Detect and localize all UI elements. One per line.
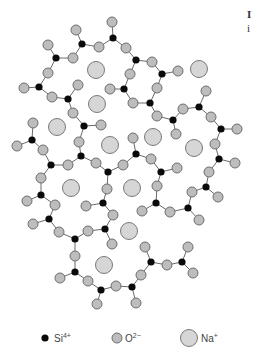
si-ion — [80, 122, 87, 129]
o-ion — [68, 53, 78, 63]
na-legend-icon — [181, 330, 198, 347]
legend-na-label: Na — [201, 333, 214, 344]
si-ion — [101, 225, 108, 232]
o-ion — [102, 184, 112, 194]
side-text-fragment-2: i — [247, 22, 250, 34]
si-ion — [71, 235, 78, 242]
si-ion — [184, 204, 191, 211]
o-ion — [19, 83, 29, 93]
o-ion — [178, 104, 188, 114]
o-ion — [50, 200, 60, 210]
o-ion — [147, 57, 157, 67]
o-ion — [206, 112, 216, 122]
o-ion — [105, 84, 115, 94]
o-ion — [55, 273, 65, 283]
na-ion — [49, 119, 66, 136]
na-ion — [186, 140, 203, 157]
o-ion — [111, 281, 121, 291]
o-ion — [213, 192, 223, 202]
legend-si-charge: 4+ — [63, 332, 71, 339]
o-ion — [107, 239, 117, 249]
si-ion — [146, 99, 153, 106]
si-ion — [195, 103, 202, 110]
o-ion — [91, 158, 101, 168]
na-ion — [88, 62, 105, 79]
o-ion — [201, 86, 211, 96]
o-ion — [81, 201, 91, 211]
o-ion — [92, 299, 102, 309]
o-ion — [71, 25, 81, 35]
o-ion — [136, 270, 146, 280]
o-ion — [74, 137, 84, 147]
o-ion — [54, 227, 64, 237]
o-ion — [94, 42, 104, 52]
si-ion — [45, 215, 52, 222]
o-legend-icon — [112, 333, 122, 343]
si-ion — [64, 95, 71, 102]
oxygen-ions — [12, 17, 242, 309]
na-ion — [89, 96, 106, 113]
side-text-fragment-1: I — [247, 8, 251, 20]
o-ion — [125, 69, 135, 79]
o-ion — [36, 173, 46, 183]
si-ion — [217, 125, 224, 132]
si-ion — [120, 85, 127, 92]
o-ion — [43, 40, 53, 50]
o-ion — [43, 68, 53, 78]
o-ion — [128, 133, 138, 143]
si-ion — [158, 70, 165, 77]
o-ion — [108, 210, 118, 220]
si-ion — [37, 191, 44, 198]
svg-text:Si4+: Si4+ — [54, 332, 71, 344]
si-ion — [97, 286, 104, 293]
o-ion — [183, 242, 193, 252]
si-ion — [47, 161, 54, 168]
legend-item-na: Na+ — [181, 330, 218, 347]
o-ion — [194, 215, 204, 225]
si-ion — [52, 54, 59, 61]
o-ion — [232, 124, 242, 134]
o-ion — [230, 158, 240, 168]
o-ion — [22, 196, 32, 206]
o-ion — [188, 268, 198, 278]
silicate-glass-diagram: Si4+ O2− Na+ — [0, 0, 258, 355]
legend-item-o: O2− — [112, 332, 141, 344]
si-ion — [132, 150, 139, 157]
si-ion — [99, 199, 106, 206]
legend-si-label: Si — [54, 333, 63, 344]
o-ion — [172, 163, 182, 173]
o-ion — [38, 145, 48, 155]
na-ion — [145, 129, 162, 146]
si-ion — [109, 34, 116, 41]
o-ion — [152, 83, 162, 93]
si-ion — [78, 40, 85, 47]
o-ion — [146, 154, 156, 164]
si-ion — [128, 283, 135, 290]
legend: Si4+ O2− Na+ — [41, 330, 217, 347]
na-ion — [102, 137, 119, 154]
o-ion — [121, 43, 131, 53]
o-ion — [96, 120, 106, 130]
o-ion — [152, 111, 162, 121]
na-ion — [191, 61, 208, 78]
na-ion — [96, 257, 113, 274]
si-ion — [71, 268, 78, 275]
o-ion — [210, 139, 220, 149]
si-ion — [157, 168, 164, 175]
o-ion — [131, 298, 141, 308]
na-ion — [63, 180, 80, 197]
svg-text:O2−: O2− — [125, 332, 141, 344]
o-ion — [28, 219, 38, 229]
o-ion — [73, 80, 83, 90]
legend-na-charge: + — [214, 332, 218, 339]
si-ion — [132, 56, 139, 63]
o-ion — [83, 226, 93, 236]
si-ion — [169, 116, 176, 123]
legend-o-charge: 2− — [133, 332, 141, 339]
o-ion — [63, 160, 73, 170]
o-ion — [171, 129, 181, 139]
o-ion — [70, 251, 80, 261]
na-ion — [124, 180, 141, 197]
o-ion — [12, 141, 22, 151]
o-ion — [47, 92, 57, 102]
